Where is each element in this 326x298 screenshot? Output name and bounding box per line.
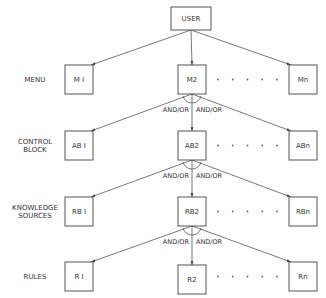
node-label-rb1: RB I bbox=[72, 208, 86, 216]
ellipsis-dot-control-block-4 bbox=[261, 145, 263, 147]
node-m2: M2 bbox=[178, 65, 206, 94]
node-label-rbn: RBn bbox=[296, 208, 310, 216]
ellipsis-dot-knowledge-sources-4 bbox=[261, 211, 263, 213]
node-label-abn: ABn bbox=[296, 142, 310, 150]
node-rb1: RB I bbox=[65, 197, 93, 226]
edge-user-to-m1 bbox=[91, 30, 191, 65]
ellipsis-dot-control-block-1 bbox=[217, 145, 219, 147]
ellipsis-dot-menu-4 bbox=[261, 79, 263, 81]
node-label-r1: R I bbox=[74, 273, 83, 281]
ellipsis-dot-knowledge-sources-2 bbox=[232, 211, 234, 213]
edge-user-to-m2 bbox=[191, 30, 192, 65]
node-mn: Mn bbox=[289, 65, 317, 94]
node-abn: ABn bbox=[289, 131, 317, 160]
level-label-knowledge-sources-line1: KNOWLEDGE bbox=[12, 204, 58, 212]
ellipsis-dot-knowledge-sources-3 bbox=[247, 211, 249, 213]
level-label-control-block-line1: CONTROL bbox=[18, 138, 52, 146]
and-or-label-right-knowledge-sources: AND/OR bbox=[196, 172, 223, 180]
ellipsis-dot-control-block-2 bbox=[232, 145, 234, 147]
ellipsis-dot-rules-5 bbox=[276, 276, 278, 278]
node-m1: M I bbox=[65, 65, 93, 94]
ellipsis-dot-menu-5 bbox=[276, 79, 278, 81]
ellipsis-dot-control-block-3 bbox=[247, 145, 249, 147]
level-label-menu: MENU bbox=[25, 76, 46, 84]
and-or-label-right-control-block: AND/OR bbox=[196, 106, 223, 114]
node-rn: Rn bbox=[289, 262, 317, 291]
node-label-m1: M I bbox=[74, 76, 84, 84]
ellipsis-dot-knowledge-sources-5 bbox=[276, 211, 278, 213]
node-rb2: RB2 bbox=[178, 197, 206, 226]
node-label-mn: Mn bbox=[298, 76, 308, 84]
node-label-rb2: RB2 bbox=[185, 208, 199, 216]
and-or-label-left-rules: AND/OR bbox=[163, 238, 190, 246]
ellipsis-layer bbox=[217, 79, 278, 278]
level-label-rules: RULES bbox=[24, 273, 47, 281]
ellipsis-dot-rules-4 bbox=[261, 276, 263, 278]
node-label-ab2: AB2 bbox=[185, 142, 199, 150]
node-label-m2: M2 bbox=[187, 76, 198, 84]
level-label-control-block-line2: BLOCK bbox=[23, 146, 47, 154]
level-labels-layer: MENUCONTROLBLOCKKNOWLEDGESOURCESRULES bbox=[12, 76, 58, 281]
and-or-label-left-knowledge-sources: AND/OR bbox=[163, 172, 190, 180]
ellipsis-dot-menu-1 bbox=[217, 79, 219, 81]
and-or-label-right-rules: AND/OR bbox=[196, 238, 223, 246]
node-ab1: AB I bbox=[65, 131, 93, 160]
ellipsis-dot-rules-2 bbox=[232, 276, 234, 278]
node-rbn: RBn bbox=[289, 197, 317, 226]
node-r2: R2 bbox=[178, 265, 206, 294]
node-label-rn: Rn bbox=[298, 273, 307, 281]
node-r1: R I bbox=[65, 262, 93, 291]
ellipsis-dot-control-block-5 bbox=[276, 145, 278, 147]
node-label-user: USER bbox=[182, 15, 201, 23]
level-label-knowledge-sources-line2: SOURCES bbox=[18, 212, 52, 220]
node-label-r2: R2 bbox=[187, 276, 196, 284]
node-label-ab1: AB I bbox=[72, 142, 86, 150]
ellipsis-dot-menu-3 bbox=[247, 79, 249, 81]
node-ab2: AB2 bbox=[178, 131, 206, 160]
ellipsis-dot-knowledge-sources-1 bbox=[217, 211, 219, 213]
ellipsis-dot-menu-2 bbox=[232, 79, 234, 81]
and-or-label-left-control-block: AND/OR bbox=[163, 106, 190, 114]
nodes-layer: USERM IM2MnAB IAB2ABnRB IRB2RBnR IR2Rn bbox=[65, 7, 317, 294]
ellipsis-dot-rules-3 bbox=[247, 276, 249, 278]
node-user: USER bbox=[171, 7, 211, 30]
ellipsis-dot-rules-1 bbox=[217, 276, 219, 278]
hierarchy-diagram: AND/ORAND/ORAND/ORAND/ORAND/ORAND/OR USE… bbox=[0, 0, 326, 298]
edge-user-to-mn bbox=[191, 30, 291, 65]
